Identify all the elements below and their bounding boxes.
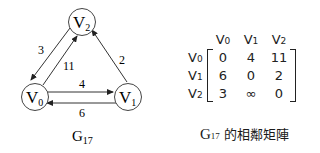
col-header-v1: V1 <box>237 32 265 47</box>
node-v1: V1 <box>115 84 142 111</box>
matrix-row-v2: V2 3 ∞ 0 <box>188 84 293 102</box>
matrix-cell: ∞ <box>237 86 265 101</box>
matrix-row-v0: V0 0 4 11 <box>188 48 293 66</box>
row-header-v1: V1 <box>188 68 209 83</box>
node-v2: V2 <box>69 9 96 36</box>
col-header-v2: V2 <box>265 32 293 47</box>
row-header-v0: V0 <box>188 50 209 65</box>
edge-label-v1-v0: 6 <box>79 106 85 120</box>
matrix-left-bracket <box>207 49 213 102</box>
matrix-cell: 0 <box>265 86 293 101</box>
matrix-cell: 6 <box>209 68 237 83</box>
adjacency-matrix: V0 V1 V2 V0 0 4 11 V1 6 0 2 V2 3 ∞ 0 <box>188 30 293 102</box>
edge-label-v0-v1: 4 <box>79 77 85 91</box>
col-header-v0: V0 <box>209 32 237 47</box>
matrix-cell: 0 <box>209 50 237 65</box>
matrix-cell: 0 <box>237 68 265 83</box>
matrix-column-headers: V0 V1 V2 <box>188 30 293 48</box>
edge-label-v2-v0: 3 <box>38 43 44 57</box>
matrix-cell: 4 <box>237 50 265 65</box>
row-header-v2: V2 <box>188 86 209 101</box>
matrix-cell: 11 <box>265 50 293 65</box>
graph-caption: G17 <box>72 128 93 146</box>
matrix-cell: 3 <box>209 86 237 101</box>
matrix-right-bracket <box>290 49 296 102</box>
matrix-caption: G17 的相鄰矩陣 <box>200 124 289 143</box>
matrix-cell: 2 <box>265 68 293 83</box>
edge-label-v1-v2: 2 <box>119 53 125 67</box>
edge-label-v0-v2: 11 <box>63 59 75 73</box>
matrix-row-v1: V1 6 0 2 <box>188 66 293 84</box>
node-v0: V0 <box>22 84 49 111</box>
